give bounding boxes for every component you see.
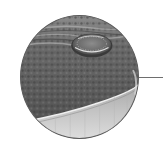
magnified-inset-figure (0, 0, 166, 156)
circular-magnification-lens (20, 15, 139, 139)
micrograph-image (21, 16, 138, 138)
egg-body (71, 34, 112, 58)
leader-line (139, 77, 163, 78)
